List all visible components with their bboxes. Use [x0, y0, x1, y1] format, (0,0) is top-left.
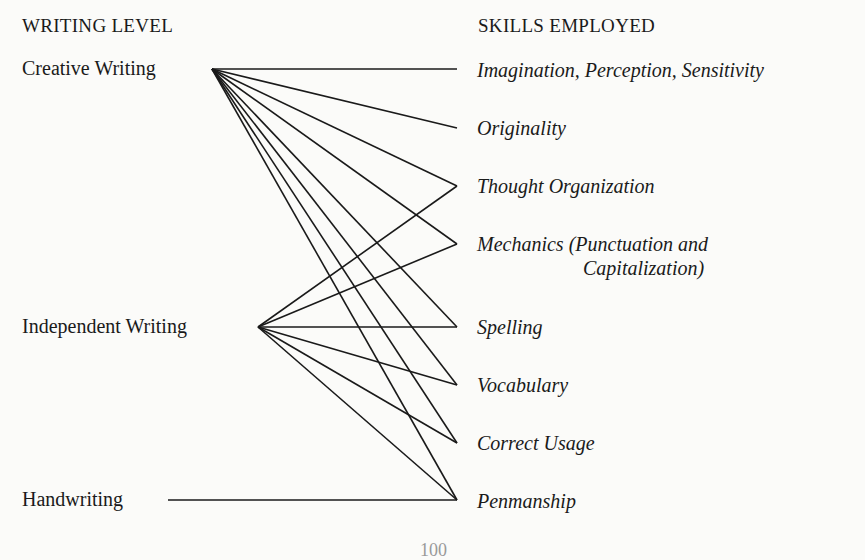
link-independent-usage	[258, 327, 457, 443]
link-independent-penmanship	[258, 327, 457, 500]
link-creative-originality	[212, 69, 457, 128]
link-creative-penmanship	[212, 69, 457, 500]
link-creative-usage	[212, 69, 457, 443]
link-creative-vocabulary	[212, 69, 457, 385]
link-independent-vocabulary	[258, 327, 457, 385]
page-number: 100	[420, 540, 447, 560]
link-creative-mechanics	[212, 69, 457, 244]
link-creative-thought	[212, 69, 457, 186]
link-creative-spelling	[212, 69, 457, 327]
